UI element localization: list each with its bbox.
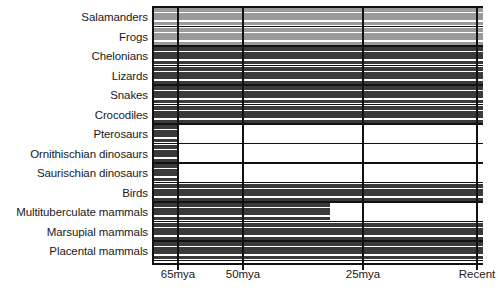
- range-bar-placental-mammals: [152, 241, 483, 261]
- taxon-label-pterosaurs: Pterosaurs: [0, 128, 148, 140]
- taxon-label-lizards: Lizards: [0, 70, 148, 82]
- row-separator: [152, 104, 483, 105]
- taxon-label-saurischian-dinosaurs: Saurischian dinosaurs: [0, 167, 148, 179]
- row-separator: [152, 182, 483, 183]
- taxon-label-crocodiles: Crocodiles: [0, 109, 148, 121]
- taxon-label-ornithischian-dinosaurs: Ornithischian dinosaurs: [0, 148, 148, 160]
- row-separator: [152, 65, 483, 66]
- axis-label-25mya: 25mya: [346, 268, 381, 280]
- row-separator: [152, 143, 483, 144]
- range-bar-salamanders: [152, 7, 483, 27]
- taxon-label-chelonians: Chelonians: [0, 50, 148, 62]
- taxon-label-multituberculate-mammals: Multituberculate mammals: [0, 206, 148, 218]
- row-separator: [152, 45, 483, 46]
- row-separator: [152, 6, 483, 7]
- axis-label-65mya: 65mya: [161, 268, 196, 280]
- range-bar-lizards: [152, 66, 483, 86]
- row-separator: [152, 84, 483, 85]
- range-bar-snakes: [152, 85, 483, 105]
- row-separator: [152, 221, 483, 222]
- range-bar-chelonians: [152, 46, 483, 66]
- gridline-50mya: [242, 7, 244, 269]
- row-separator: [152, 201, 483, 202]
- row-separator: [152, 162, 483, 163]
- plot-area: [152, 7, 483, 263]
- taxon-range-chart: SalamandersFrogsCheloniansLizardsSnakesC…: [0, 0, 499, 292]
- range-bar-marsupial-mammals: [152, 222, 483, 242]
- taxon-label-snakes: Snakes: [0, 89, 148, 101]
- x-axis-line: [152, 263, 483, 265]
- range-bar-saurischian-dinosaurs: [152, 163, 178, 183]
- gridline-65mya: [177, 7, 179, 269]
- taxon-label-placental-mammals: Placental mammals: [0, 245, 148, 257]
- range-bar-frogs: [152, 27, 483, 47]
- row-separator: [152, 26, 483, 27]
- row-separator: [152, 260, 483, 261]
- taxon-label-salamanders: Salamanders: [0, 11, 148, 23]
- row-separator: [152, 240, 483, 241]
- row-separator: [152, 123, 483, 124]
- axis-label-recent: Recent: [459, 268, 495, 280]
- plot-left-edge: [152, 7, 154, 263]
- taxon-label-marsupial-mammals: Marsupial mammals: [0, 226, 148, 238]
- axis-label-50mya: 50mya: [226, 268, 261, 280]
- range-bar-birds: [152, 183, 483, 203]
- range-bar-crocodiles: [152, 105, 483, 125]
- gridline-25mya: [362, 7, 364, 269]
- gridline-recent: [476, 7, 478, 269]
- taxon-label-birds: Birds: [0, 187, 148, 199]
- range-bar-pterosaurs: [152, 124, 178, 144]
- taxon-label-frogs: Frogs: [0, 31, 148, 43]
- range-bar-ornithischian-dinosaurs: [152, 144, 178, 164]
